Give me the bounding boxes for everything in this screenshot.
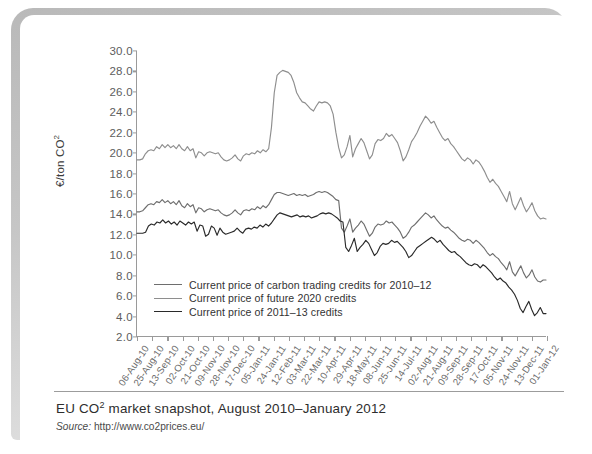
x-axis-tick-mark: [167, 336, 168, 341]
legend-item-label: Current price of future 2020 credits: [189, 292, 356, 304]
y-axis-label-superscript: 2: [52, 135, 61, 140]
y-axis-tick-label: 12.0: [109, 229, 133, 241]
chart-container: €/ton CO2 30.028.026.024.022.020.018.016…: [54, 37, 564, 387]
x-axis-tick-mark: [365, 336, 366, 341]
x-axis-tick-mark: [441, 336, 442, 341]
legend-color-swatch: [154, 284, 182, 285]
x-axis-tick-mark: [228, 336, 229, 341]
y-axis-tick-mark: [133, 153, 138, 154]
y-axis-tick-mark: [133, 91, 138, 92]
legend-item: Current price of future 2020 credits: [154, 292, 431, 306]
figure-caption: EU CO2 market snapshot, August 2010–Janu…: [56, 400, 386, 416]
y-axis-tick-label: 26.0: [109, 86, 133, 98]
y-axis-tick-mark: [133, 112, 138, 113]
y-axis-tick-label: 20.0: [109, 147, 133, 159]
x-axis-tick-mark: [213, 336, 214, 341]
y-axis-tick-label: 8.0: [116, 270, 133, 282]
y-axis-tick-label: 16.0: [109, 188, 133, 200]
y-axis-tick-label: 28.0: [109, 65, 133, 77]
y-axis-tick-label: 24.0: [109, 106, 133, 118]
y-axis-tick-mark: [133, 71, 138, 72]
x-axis-tick-mark: [198, 336, 199, 341]
x-axis-tick-mark: [152, 336, 153, 341]
x-axis-tick-mark: [258, 336, 259, 341]
x-axis-tick-mark: [350, 336, 351, 341]
figure-source-label: Source:: [56, 421, 91, 432]
y-axis-tick-label: 4.0: [116, 311, 133, 323]
legend-item: Current price of carbon trading credits …: [154, 278, 431, 292]
legend-color-swatch: [154, 298, 182, 299]
x-axis-tick-mark: [547, 336, 548, 341]
x-axis-tick-mark: [274, 336, 275, 341]
x-axis-tick-mark: [456, 336, 457, 341]
y-axis-tick-mark: [133, 296, 138, 297]
y-axis-tick-label: 10.0: [109, 249, 133, 261]
figure-page: €/ton CO2 30.028.026.024.022.020.018.016…: [0, 0, 592, 454]
x-axis-tick-mark: [486, 336, 487, 341]
x-axis-tick-mark: [501, 336, 502, 341]
y-axis-label: €/ton CO2: [52, 67, 66, 187]
y-axis-tick-mark: [133, 275, 138, 276]
x-axis-tick-mark: [395, 336, 396, 341]
series-line: [137, 191, 546, 282]
x-axis-tick-mark: [334, 336, 335, 341]
y-axis-tick-label: 14.0: [109, 208, 133, 220]
y-axis-label-text: €/ton CO: [54, 139, 66, 187]
x-axis-tick-mark: [426, 336, 427, 341]
x-axis-tick-mark: [304, 336, 305, 341]
legend-color-swatch: [154, 311, 182, 312]
figure-card: €/ton CO2 30.028.026.024.022.020.018.016…: [20, 15, 571, 443]
caption-divider: [54, 391, 564, 392]
chart-legend: Current price of carbon trading credits …: [154, 278, 431, 319]
legend-item-label: Current price of carbon trading credits …: [189, 279, 431, 291]
figure-caption-pre: EU CO: [56, 401, 99, 416]
figure-source: Source: http://www.co2prices.eu/: [56, 421, 204, 432]
x-axis-tick-mark: [243, 336, 244, 341]
x-axis-tick-mark: [380, 336, 381, 341]
figure-caption-post: market snapshot, August 2010–January 201…: [105, 401, 387, 416]
x-axis-tick-mark: [471, 336, 472, 341]
y-axis-tick-label: 18.0: [109, 168, 133, 180]
x-axis-tick-mark: [517, 336, 518, 341]
y-axis-tick-label: 30.0: [109, 45, 133, 57]
x-axis-tick-mark: [319, 336, 320, 341]
x-axis-tick-mark: [137, 336, 138, 341]
y-axis-tick-mark: [133, 132, 138, 133]
y-axis-tick-mark: [133, 255, 138, 256]
x-axis-tick-mark: [532, 336, 533, 341]
y-axis-tick-mark: [133, 234, 138, 235]
legend-item-label: Current price of 2011–13 credits: [189, 306, 343, 318]
y-axis-tick-mark: [133, 214, 138, 215]
y-axis-tick-label: 2.0: [116, 331, 133, 343]
series-line: [137, 70, 546, 219]
y-axis-tick-label: 22.0: [109, 127, 133, 139]
x-axis-tick-mark: [289, 336, 290, 341]
x-axis-tick-mark: [183, 336, 184, 341]
y-axis-tick-mark: [133, 316, 138, 317]
legend-item: Current price of 2011–13 credits: [154, 305, 431, 319]
y-axis-tick-mark: [133, 193, 138, 194]
x-axis-tick-mark: [410, 336, 411, 341]
figure-source-url: http://www.co2prices.eu/: [94, 421, 204, 432]
y-axis-tick-mark: [133, 50, 138, 51]
y-axis-tick-label: 6.0: [116, 290, 133, 302]
y-axis-tick-mark: [133, 173, 138, 174]
